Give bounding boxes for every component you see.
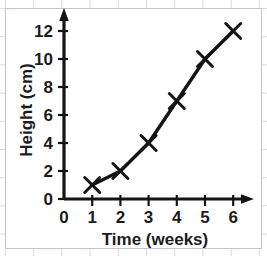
x-axis-title: Time (weeks)	[102, 230, 208, 249]
y-axis-tick-label: 12	[34, 22, 53, 41]
data-point-marker	[85, 178, 100, 193]
x-axis-tick-label: 1	[87, 208, 96, 227]
data-point-marker	[198, 52, 213, 67]
y-axis-tick-label: 10	[34, 50, 53, 69]
data-point-marker	[226, 24, 241, 39]
y-axis-tick-label: 6	[44, 106, 53, 125]
x-axis-tick-label: 2	[116, 208, 125, 227]
x-axis-tick-label: 3	[144, 208, 153, 227]
data-line	[92, 31, 233, 185]
y-axis-tick-label: 2	[44, 162, 53, 181]
data-point-marker	[113, 164, 128, 179]
y-axis-tick-label: 0	[44, 190, 53, 209]
x-axis-tick-label: 5	[200, 208, 209, 227]
y-axis-arrowhead	[59, 8, 69, 21]
x-axis-tick-label: 4	[172, 208, 182, 227]
chart-figure: 024681012 0123456 Time (weeks) Height (c…	[0, 0, 267, 256]
x-axis-tick-label: 0	[59, 208, 68, 227]
x-axis-tick-label: 6	[228, 208, 237, 227]
chart-plot-area: 024681012 0123456 Time (weeks) Height (c…	[0, 0, 267, 256]
x-axis-arrowhead	[241, 194, 254, 204]
data-point-marker	[169, 94, 184, 109]
x-axis-tick-labels: 0123456	[59, 208, 238, 227]
y-axis-tick-label: 4	[44, 134, 54, 153]
y-axis-tick-labels: 024681012	[34, 22, 53, 209]
y-axis-tick-label: 8	[44, 78, 53, 97]
y-axis-title: Height (cm)	[17, 63, 36, 157]
data-point-marker	[141, 136, 156, 151]
